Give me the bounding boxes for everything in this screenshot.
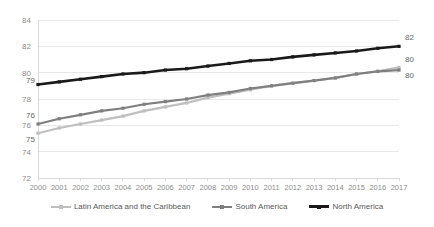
data-point-marker: [334, 76, 337, 79]
chart-legend: Latin America and the Caribbean South Am…: [0, 202, 434, 211]
data-point-marker: [185, 101, 188, 104]
data-point-marker: [376, 47, 379, 50]
data-point-marker: [334, 51, 337, 54]
data-point-marker: [270, 58, 273, 61]
x-tick-label: 2009: [221, 183, 238, 192]
end-value-label: 82: [405, 33, 414, 42]
data-point-marker: [79, 113, 82, 116]
series-lines: [38, 46, 399, 133]
x-tick-label: 2002: [72, 183, 89, 192]
data-point-marker: [143, 103, 146, 106]
data-point-marker: [164, 68, 167, 71]
plot-area: 72747678808284 2000200120022003200420052…: [0, 0, 434, 227]
data-point-marker: [376, 70, 379, 73]
x-tick-label: 2007: [178, 183, 195, 192]
data-point-marker: [397, 68, 400, 71]
x-tick-label: 2016: [369, 183, 386, 192]
x-tick-label: 2008: [200, 183, 217, 192]
data-point-marker: [121, 107, 124, 110]
data-point-marker: [121, 115, 124, 118]
y-tick-label: 78: [22, 95, 31, 104]
end-value-label: 80: [405, 55, 414, 64]
legend-marker-dot: [317, 205, 321, 209]
data-point-marker: [291, 55, 294, 58]
x-tick-label: 2010: [242, 183, 259, 192]
data-point-marker: [355, 72, 358, 75]
data-point-marker: [228, 91, 231, 94]
data-point-marker: [185, 97, 188, 100]
data-point-marker: [100, 118, 103, 121]
legend-swatch-north-america: [309, 202, 329, 211]
legend-item-south-america[interactable]: South America: [212, 202, 287, 211]
y-tick-label: 74: [22, 148, 31, 157]
legend-label-north-america: North America: [332, 202, 383, 211]
x-tick-label: 2000: [30, 183, 47, 192]
data-point-marker: [185, 67, 188, 70]
data-point-marker: [36, 83, 39, 86]
legend-marker-dot: [220, 205, 224, 209]
data-point-marker: [58, 117, 61, 120]
data-point-marker: [100, 75, 103, 78]
data-point-marker: [121, 72, 124, 75]
x-tick-label: 2011: [264, 183, 280, 192]
x-tick-label: 2003: [93, 183, 110, 192]
data-point-marker: [79, 122, 82, 125]
y-tick-label: 72: [22, 174, 31, 183]
legend-item-latin-america[interactable]: Latin America and the Caribbean: [51, 202, 191, 211]
x-tick-label: 2013: [306, 183, 323, 192]
line-chart: 72747678808284 2000200120022003200420052…: [0, 0, 434, 227]
data-point-marker: [36, 122, 39, 125]
start-value-label: 76: [26, 111, 35, 120]
data-point-marker: [164, 105, 167, 108]
data-point-marker: [291, 82, 294, 85]
x-tick-label: 2005: [136, 183, 153, 192]
data-point-marker: [143, 71, 146, 74]
legend-label-south-america: South America: [235, 202, 287, 211]
data-point-marker: [36, 132, 39, 135]
x-tick-label: 2017: [391, 183, 408, 192]
legend-swatch-latin-america: [51, 202, 71, 211]
legend-label-latin-america: Latin America and the Caribbean: [74, 202, 191, 211]
legend-marker-dot: [59, 205, 63, 209]
y-axis-tick-labels: 72747678808284: [22, 16, 31, 183]
data-point-marker: [249, 59, 252, 62]
data-point-marker: [100, 109, 103, 112]
data-point-marker: [58, 126, 61, 129]
y-tick-label: 82: [22, 42, 31, 51]
x-axis-tick-labels: 2000200120022003200420052006200720082009…: [30, 183, 408, 192]
data-point-marker: [312, 79, 315, 82]
start-value-label: 75: [26, 135, 35, 144]
data-point-marker: [206, 93, 209, 96]
x-tick-label: 2004: [115, 183, 132, 192]
gridlines: [38, 20, 399, 178]
x-tick-label: 2014: [327, 183, 344, 192]
start-value-label: 79: [26, 76, 35, 85]
data-point-marker: [249, 87, 252, 90]
legend-swatch-south-america: [212, 202, 232, 211]
data-point-marker: [206, 64, 209, 67]
data-point-marker: [228, 62, 231, 65]
y-tick-label: 84: [22, 16, 31, 25]
data-point-marker: [355, 49, 358, 52]
x-tick-label: 2012: [284, 183, 301, 192]
data-point-marker: [58, 80, 61, 83]
data-point-marker: [270, 84, 273, 87]
data-point-marker: [312, 53, 315, 56]
series-line: [38, 46, 399, 84]
axis-lines: [38, 20, 399, 181]
y-tick-label: 76: [22, 121, 31, 130]
data-point-marker: [79, 78, 82, 81]
legend-item-north-america[interactable]: North America: [309, 202, 383, 211]
x-tick-label: 2001: [51, 183, 68, 192]
data-point-marker: [143, 109, 146, 112]
x-tick-label: 2006: [157, 183, 174, 192]
data-point-marker: [164, 100, 167, 103]
data-point-marker: [397, 45, 400, 48]
x-tick-label: 2015: [348, 183, 365, 192]
end-value-label: 80: [405, 71, 414, 80]
